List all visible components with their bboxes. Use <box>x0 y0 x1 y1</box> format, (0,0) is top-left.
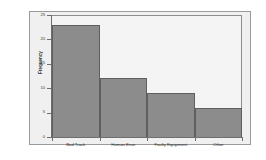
x-axis-labels: Bad Track Human Error Faulty Equipment O… <box>52 142 242 147</box>
y-tick-label: 20 <box>33 37 45 42</box>
y-tick-mark <box>47 113 51 114</box>
y-tick-label-text: 20 <box>33 37 45 41</box>
bar-other <box>195 108 243 137</box>
x-label-bad-track: Bad Track <box>52 142 100 147</box>
chart-figure: 0 5 10 15 20 25 Bad Track Human Err <box>0 0 266 160</box>
y-tick-mark <box>47 137 51 138</box>
bar-column <box>147 15 195 137</box>
y-tick-label-text: 5 <box>33 110 45 114</box>
bar-human-error <box>100 78 148 137</box>
y-tick-label: 0 <box>33 135 45 140</box>
x-tick-mark <box>147 138 148 141</box>
y-tick-label: 5 <box>33 110 45 115</box>
y-tick-label-text: 25 <box>33 13 45 17</box>
x-tick-mark <box>100 138 101 141</box>
y-tick-mark <box>47 64 51 65</box>
y-tick-label: 10 <box>33 86 45 91</box>
y-tick-label-text: 0 <box>33 135 45 139</box>
y-axis-title: Frequency <box>38 43 43 83</box>
bar-series <box>52 15 242 137</box>
y-tick-label: 25 <box>33 13 45 18</box>
bar-bad-track <box>52 25 100 137</box>
x-label-other: Other <box>195 142 243 147</box>
x-tick-mark <box>242 138 243 141</box>
y-tick-mark <box>47 88 51 89</box>
x-label-human-error: Human Error <box>100 142 148 147</box>
bar-column <box>52 15 100 137</box>
bar-column <box>195 15 243 137</box>
x-tick-mark <box>195 138 196 141</box>
y-tick-mark <box>47 39 51 40</box>
x-label-faulty-equipment: Faulty Equipment <box>147 142 195 147</box>
bar-faulty-equipment <box>147 93 195 137</box>
y-tick-mark <box>47 15 51 16</box>
y-tick-label-text: 10 <box>33 86 45 90</box>
x-tick-mark <box>52 138 53 141</box>
bar-column <box>100 15 148 137</box>
